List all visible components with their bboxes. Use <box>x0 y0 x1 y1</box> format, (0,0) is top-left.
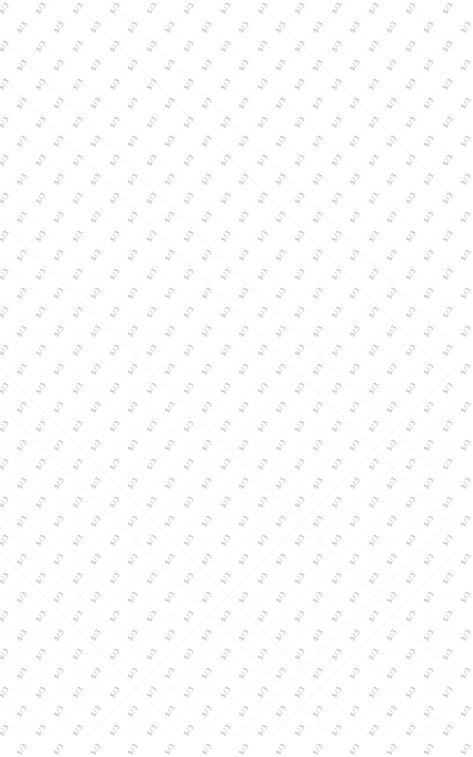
watermark-label: $/3 <box>349 20 362 34</box>
watermark-label: $/3 <box>34 685 47 699</box>
watermark-label: $/3 <box>53 552 66 566</box>
watermark-label: $/3 <box>238 590 251 604</box>
watermark-label: $/3 <box>0 685 10 699</box>
watermark-label: $/3 <box>34 191 47 205</box>
watermark-label: $/3 <box>293 115 306 129</box>
watermark-label: $/3 <box>460 324 473 338</box>
watermark-label: $/3 <box>312 58 325 72</box>
watermark-label: $/3 <box>441 685 454 699</box>
watermark-label: $/3 <box>108 647 121 661</box>
watermark-label: $/3 <box>441 39 454 53</box>
watermark-label: $/3 <box>404 77 417 91</box>
watermark-label: $/3 <box>349 172 362 186</box>
watermark-label: $/3 <box>53 438 66 452</box>
watermark-label: $/3 <box>256 1 269 15</box>
watermark-label: $/3 <box>312 552 325 566</box>
watermark-label: $/3 <box>238 666 251 680</box>
watermark-label: $/3 <box>423 400 436 414</box>
watermark-label: $/3 <box>16 628 29 642</box>
watermark-label: $/3 <box>16 438 29 452</box>
watermark-label: $/3 <box>201 20 214 34</box>
watermark-label: $/3 <box>349 628 362 642</box>
watermark-label: $/3 <box>367 229 380 243</box>
watermark-label: $/3 <box>16 362 29 376</box>
watermark-label: $/3 <box>423 286 436 300</box>
watermark-label: $/3 <box>219 39 232 53</box>
watermark-label: $/3 <box>330 191 343 205</box>
watermark-label: $/3 <box>219 343 232 357</box>
watermark-label: $/3 <box>312 742 325 756</box>
watermark-label: $/3 <box>127 552 140 566</box>
watermark-label: $/3 <box>256 153 269 167</box>
watermark-label: $/3 <box>330 571 343 585</box>
watermark-label: $/3 <box>90 324 103 338</box>
watermark-label: $/3 <box>34 267 47 281</box>
watermark-label: $/3 <box>145 609 158 623</box>
watermark-label: $/3 <box>201 552 214 566</box>
watermark-label: $/3 <box>404 305 417 319</box>
watermark-label: $/3 <box>256 533 269 547</box>
watermark-label: $/3 <box>164 628 177 642</box>
watermark-label: $/3 <box>404 343 417 357</box>
watermark-label: $/3 <box>330 343 343 357</box>
watermark-label: $/3 <box>53 286 66 300</box>
watermark-label: $/3 <box>90 58 103 72</box>
watermark-label: $/3 <box>460 514 473 528</box>
watermark-label: $/3 <box>293 457 306 471</box>
watermark-label: $/3 <box>164 666 177 680</box>
watermark-label: $/3 <box>219 77 232 91</box>
watermark-label: $/3 <box>127 134 140 148</box>
watermark-label: $/3 <box>275 286 288 300</box>
watermark-label: $/3 <box>16 324 29 338</box>
watermark-label: $/3 <box>164 704 177 718</box>
watermark-label: $/3 <box>127 628 140 642</box>
watermark-label: $/3 <box>349 362 362 376</box>
watermark-label: $/3 <box>293 381 306 395</box>
watermark-label: $/3 <box>275 20 288 34</box>
watermark-label: $/3 <box>182 191 195 205</box>
watermark-label: $/3 <box>386 438 399 452</box>
watermark-label: $/3 <box>441 419 454 433</box>
watermark-label: $/3 <box>312 20 325 34</box>
watermark-label: $/3 <box>71 305 84 319</box>
watermark-label: $/3 <box>182 267 195 281</box>
watermark-label: $/3 <box>330 229 343 243</box>
watermark-label: $/3 <box>108 419 121 433</box>
watermark-label: $/3 <box>127 514 140 528</box>
watermark-label: $/3 <box>238 324 251 338</box>
watermark-label: $/3 <box>0 647 10 661</box>
watermark-label: $/3 <box>330 723 343 737</box>
watermark-label: $/3 <box>71 191 84 205</box>
watermark-label: $/3 <box>219 419 232 433</box>
watermark-label: $/3 <box>108 305 121 319</box>
watermark-label: $/3 <box>145 1 158 15</box>
watermark-label: $/3 <box>164 438 177 452</box>
watermark-label: $/3 <box>108 191 121 205</box>
watermark-label: $/3 <box>127 172 140 186</box>
watermark-label: $/3 <box>53 96 66 110</box>
watermark-label: $/3 <box>349 742 362 756</box>
watermark-label: $/3 <box>71 419 84 433</box>
watermark-label: $/3 <box>145 647 158 661</box>
watermark-label: $/3 <box>201 438 214 452</box>
watermark-label: $/3 <box>256 571 269 585</box>
watermark-label: $/3 <box>164 210 177 224</box>
watermark-label: $/3 <box>386 210 399 224</box>
watermark-label: $/3 <box>219 495 232 509</box>
watermark-label: $/3 <box>275 628 288 642</box>
watermark-label: $/3 <box>293 533 306 547</box>
watermark-label: $/3 <box>275 134 288 148</box>
watermark-label: $/3 <box>219 457 232 471</box>
watermark-label: $/3 <box>312 362 325 376</box>
watermark-label: $/3 <box>219 533 232 547</box>
watermark-label: $/3 <box>201 58 214 72</box>
watermark-label: $/3 <box>90 476 103 490</box>
watermark-label: $/3 <box>460 20 473 34</box>
watermark-label: $/3 <box>386 248 399 262</box>
watermark-label: $/3 <box>367 77 380 91</box>
watermark-label: $/3 <box>53 666 66 680</box>
watermark-label: $/3 <box>127 210 140 224</box>
watermark-label: $/3 <box>238 628 251 642</box>
watermark-label: $/3 <box>145 419 158 433</box>
watermark-label: $/3 <box>164 286 177 300</box>
